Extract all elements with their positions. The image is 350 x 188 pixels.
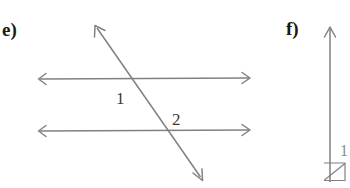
parallel-line-bottom <box>40 130 249 131</box>
transversal-line <box>97 28 201 177</box>
arrowhead-transversal-bottom <box>193 169 203 181</box>
parallel-line-top <box>40 78 249 79</box>
figure-label-e: e) <box>2 20 17 39</box>
angle-label-1: 1 <box>116 90 125 107</box>
figure-e-group <box>39 26 251 181</box>
angle-label-f1: 1 <box>340 143 348 159</box>
figure-label-f: f) <box>286 19 299 38</box>
diagram-canvas: e) f) 1 2 1 <box>0 0 350 188</box>
angle-label-2: 2 <box>172 111 181 128</box>
marker-diagonal <box>325 164 346 181</box>
